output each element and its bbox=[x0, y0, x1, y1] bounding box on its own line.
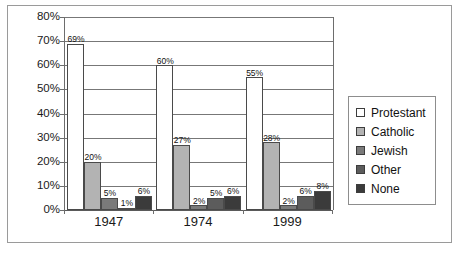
legend-swatch-protestant bbox=[356, 108, 365, 117]
bar-value-label: 69% bbox=[67, 35, 84, 44]
x-tick-mark bbox=[64, 210, 65, 214]
bar-jewish-1999: 2% bbox=[280, 205, 297, 210]
bar-value-label: 6% bbox=[227, 187, 239, 196]
bar-protestant-1999: 55% bbox=[246, 77, 263, 210]
legend-item-other: Other bbox=[356, 160, 429, 179]
x-tick-mark bbox=[153, 210, 154, 214]
y-tick-label: 0% bbox=[8, 204, 60, 216]
legend-label: None bbox=[371, 183, 400, 195]
bar-value-label: 8% bbox=[316, 182, 328, 191]
bar-catholic-1999: 28% bbox=[263, 142, 280, 210]
bar-protestant-1974: 60% bbox=[156, 65, 173, 210]
y-tick-label: 60% bbox=[8, 60, 60, 72]
legend-item-jewish: Jewish bbox=[356, 141, 429, 160]
x-tick-mark bbox=[243, 210, 244, 214]
y-tick-label: 20% bbox=[8, 156, 60, 168]
bar-none-1999: 8% bbox=[314, 191, 331, 210]
bar-other-1947: 1% bbox=[118, 208, 135, 210]
legend-label: Jewish bbox=[371, 145, 408, 157]
bar-value-label: 5% bbox=[210, 189, 222, 198]
bar-value-label: 20% bbox=[84, 153, 101, 162]
legend-item-none: None bbox=[356, 179, 429, 198]
bar-protestant-1947: 69% bbox=[67, 44, 84, 210]
legend-swatch-none bbox=[356, 184, 365, 193]
bar-value-label: 6% bbox=[299, 187, 311, 196]
bar-value-label: 27% bbox=[174, 136, 191, 145]
y-tick-label: 40% bbox=[8, 108, 60, 120]
legend-item-protestant: Protestant bbox=[356, 103, 429, 122]
y-tick-label: 10% bbox=[8, 180, 60, 192]
bar-group-1947: 69%20%5%1%6% bbox=[65, 17, 154, 210]
gridline-0% bbox=[65, 210, 333, 211]
chart-figure: 0%10%20%30%40%50%60%70%80% 69%20%5%1%6%6… bbox=[0, 0, 461, 254]
legend-swatch-catholic bbox=[356, 127, 365, 136]
bar-group-1999: 55%28%2%6%8% bbox=[244, 17, 333, 210]
y-axis: 0%10%20%30%40%50%60%70%80% bbox=[2, 17, 60, 210]
y-tick-label: 30% bbox=[8, 132, 60, 144]
legend-item-catholic: Catholic bbox=[356, 122, 429, 141]
bar-value-label: 2% bbox=[193, 197, 205, 206]
bar-catholic-1974: 27% bbox=[173, 145, 190, 210]
y-tick-label: 80% bbox=[8, 11, 60, 23]
plot-area: 69%20%5%1%6%60%27%2%5%6%55%28%2%6%8% bbox=[64, 17, 334, 210]
bar-value-label: 1% bbox=[121, 199, 133, 208]
bar-other-1999: 6% bbox=[297, 196, 314, 210]
bar-other-1974: 5% bbox=[207, 198, 224, 210]
bar-jewish-1974: 2% bbox=[190, 205, 207, 210]
bar-none-1947: 6% bbox=[135, 196, 152, 210]
legend-label: Catholic bbox=[371, 126, 414, 138]
bar-value-label: 5% bbox=[104, 189, 116, 198]
bar-group-1974: 60%27%2%5%6% bbox=[154, 17, 243, 210]
x-tick-label-1974: 1974 bbox=[184, 214, 213, 229]
x-axis: 194719741999 bbox=[64, 214, 334, 236]
x-tick-label-1947: 1947 bbox=[94, 214, 123, 229]
bar-catholic-1947: 20% bbox=[84, 162, 101, 210]
legend-label: Other bbox=[371, 164, 401, 176]
legend-swatch-other bbox=[356, 165, 365, 174]
legend-label: Protestant bbox=[371, 107, 426, 119]
y-tick-label: 70% bbox=[8, 35, 60, 47]
bar-none-1974: 6% bbox=[224, 196, 241, 210]
bar-value-label: 6% bbox=[138, 187, 150, 196]
bar-value-label: 60% bbox=[157, 57, 174, 66]
bar-value-label: 2% bbox=[282, 197, 294, 206]
x-tick-mark bbox=[332, 210, 333, 214]
bar-value-label: 28% bbox=[263, 134, 280, 143]
bar-value-label: 55% bbox=[246, 69, 263, 78]
bar-jewish-1947: 5% bbox=[101, 198, 118, 210]
x-tick-label-1999: 1999 bbox=[273, 214, 302, 229]
chart-legend: ProtestantCatholicJewishOtherNone bbox=[348, 96, 436, 205]
legend-swatch-jewish bbox=[356, 146, 365, 155]
y-tick-label: 50% bbox=[8, 84, 60, 96]
